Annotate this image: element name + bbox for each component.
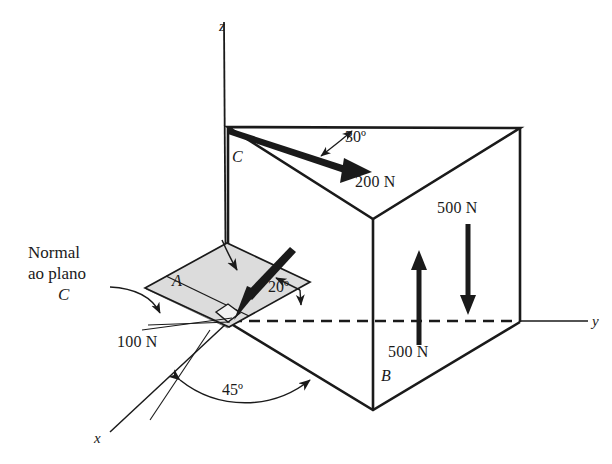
angle-30-label: 30º bbox=[345, 128, 366, 146]
prism-diagram-svg bbox=[0, 0, 612, 464]
normal-note-line-1: Normal bbox=[28, 243, 80, 262]
face-label-C: C bbox=[232, 148, 243, 166]
normal-note-line-3: C bbox=[58, 285, 69, 304]
angle-45-label: 45º bbox=[222, 381, 243, 399]
x-axis-label: x bbox=[94, 430, 101, 447]
force-200n-label: 200 N bbox=[355, 173, 396, 191]
force-500n-up-arrow bbox=[411, 250, 427, 345]
face-label-B: B bbox=[381, 367, 391, 385]
normal-note-line-2: ao plano bbox=[28, 264, 86, 283]
face-label-A: A bbox=[172, 272, 182, 290]
force-500n-up-label: 500 N bbox=[388, 343, 429, 361]
force-500n-down-label: 500 N bbox=[437, 199, 478, 217]
angle-45-arc bbox=[180, 380, 310, 403]
plane-construction-line bbox=[150, 330, 210, 420]
angle-20-label: 20º bbox=[268, 278, 289, 296]
force-100n-label: 100 N bbox=[117, 333, 158, 351]
z-axis-label: z bbox=[219, 18, 225, 35]
statics-prism-figure: z y x C A B 30º 20º 45º 200 N 500 N 500 … bbox=[0, 0, 612, 464]
force-500n-down-arrow bbox=[460, 224, 476, 315]
y-axis-label: y bbox=[592, 313, 599, 330]
